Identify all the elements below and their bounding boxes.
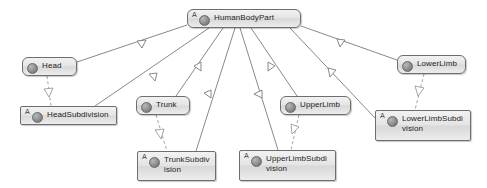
class-node-label: HumanBodyPart [214, 13, 274, 23]
class-node-humanbodypart[interactable]: A HumanBodyPart [187, 9, 301, 28]
class-circle-icon [32, 112, 43, 123]
edge-lowerlimb-to-lowerlimbsubdivision[interactable] [415, 74, 424, 110]
class-circle-icon [149, 157, 160, 168]
uml-diagram-canvas: A HumanBodyPart Head A HeadSubdivision T… [0, 0, 487, 188]
class-node-label: UpperLimb [300, 100, 340, 110]
class-node-head[interactable]: Head [22, 57, 77, 76]
class-circle-icon [27, 63, 38, 74]
abstract-marker-icon: A [24, 109, 31, 116]
abstract-marker-icon: A [141, 154, 148, 161]
class-node-label: TrunkSubdivision [164, 155, 210, 175]
class-node-label: Head [42, 61, 62, 71]
class-node-label: HeadSubdivision [47, 110, 109, 120]
edge-trunksubdivision-to-humanbodypart[interactable] [196, 28, 235, 151]
class-node-label: LowerLimbSubdivision [402, 114, 465, 134]
class-node-lowerlimb[interactable]: LowerLimb [397, 55, 466, 74]
class-node-label: Trunk [156, 100, 177, 110]
class-node-label: LowerLimb [417, 59, 457, 69]
class-node-upperlimb[interactable]: UpperLimb [280, 96, 351, 115]
class-circle-icon [402, 61, 413, 72]
edge-head-to-humanbodypart[interactable] [77, 25, 187, 62]
class-circle-icon [251, 156, 262, 167]
class-node-trunksubdivision[interactable]: A TrunkSubdivision [137, 151, 216, 181]
edge-trunk-to-humanbodypart[interactable] [176, 28, 223, 96]
abstract-marker-icon: A [243, 153, 250, 160]
edge-upperlimb-to-humanbodypart[interactable] [251, 28, 297, 96]
class-circle-icon [199, 15, 210, 26]
edge-lowerlimb-to-humanbodypart[interactable] [301, 26, 397, 60]
edge-head-to-headsubdivision[interactable] [44, 76, 53, 106]
abstract-marker-icon: A [191, 12, 198, 19]
class-node-lowerlimbsubdivision[interactable]: A LowerLimbSubdivision [375, 110, 471, 141]
edge-trunk-to-trunksubdivision[interactable] [155, 115, 167, 151]
class-circle-icon [387, 116, 398, 127]
edge-headsubdivision-to-humanbodypart[interactable] [95, 28, 209, 106]
edge-upperlimbsubdivision-to-humanbodypart[interactable] [240, 28, 278, 150]
class-circle-icon [285, 102, 296, 113]
class-node-headsubdivision[interactable]: A HeadSubdivision [20, 106, 117, 125]
class-node-upperlimbsubdivision[interactable]: A UpperLimbSubdivision [239, 150, 336, 181]
class-circle-icon [141, 102, 152, 113]
class-node-trunk[interactable]: Trunk [136, 96, 190, 115]
class-node-label: UpperLimbSubdivision [266, 154, 330, 174]
abstract-marker-icon: A [379, 113, 386, 120]
edge-upperlimb-to-upperlimbsubdivision[interactable] [291, 115, 299, 150]
